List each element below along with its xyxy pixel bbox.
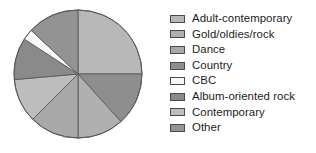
legend-swatch-icon [170, 30, 185, 38]
legend-swatch-icon [170, 62, 185, 70]
legend-item-label: Dance [192, 42, 225, 58]
legend-item-label: Contemporary [192, 105, 265, 121]
legend-swatch-icon [170, 77, 185, 85]
legend-item[interactable]: CBC [170, 73, 316, 89]
pie-chart-figure: Adult-contemporary Gold/oldies/rock Danc… [0, 0, 316, 153]
chart-legend: Adult-contemporary Gold/oldies/rock Danc… [165, 0, 316, 136]
pie-slice[interactable] [78, 10, 142, 74]
legend-item-label: CBC [192, 73, 216, 89]
legend-swatch-icon [170, 124, 185, 132]
legend-item[interactable]: Dance [170, 42, 316, 58]
legend-swatch-icon [170, 108, 185, 116]
legend-swatch-icon [170, 46, 185, 54]
legend-item-label: Album-oriented rock [192, 89, 295, 105]
legend-swatch-icon [170, 93, 185, 101]
legend-item[interactable]: Album-oriented rock [170, 89, 316, 105]
pie-chart-plot-area [0, 0, 165, 153]
pie-chart-svg [0, 0, 165, 153]
legend-item-label: Gold/oldies/rock [192, 27, 274, 43]
legend-item[interactable]: Country [170, 58, 316, 74]
legend-swatch-icon [170, 15, 185, 23]
legend-item[interactable]: Other [170, 120, 316, 136]
legend-item-label: Country [192, 58, 232, 74]
legend-item-label: Other [192, 120, 221, 136]
legend-item-label: Adult-contemporary [192, 11, 292, 27]
legend-item[interactable]: Contemporary [170, 105, 316, 121]
legend-item[interactable]: Gold/oldies/rock [170, 27, 316, 43]
legend-item[interactable]: Adult-contemporary [170, 11, 316, 27]
